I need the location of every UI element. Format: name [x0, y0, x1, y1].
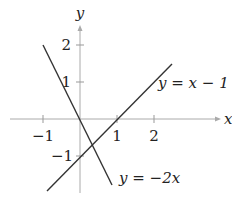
x-axis-arrow-icon — [215, 117, 221, 122]
tick-y-1: 1 — [61, 73, 71, 91]
tick-y-neg1: −1 — [51, 147, 73, 165]
label-y-x-minus-1: y = x − 1 — [157, 74, 229, 92]
tick-y-2: 2 — [61, 36, 71, 54]
y-axis-label: y — [75, 4, 85, 22]
x-axis-label: x — [224, 110, 232, 128]
tick-x-neg1: −1 — [32, 127, 54, 145]
y-axis-arrow-icon — [78, 25, 83, 31]
tick-x-2: 2 — [149, 127, 159, 145]
chart: −1 1 2 2 1 −1 x y y = x − 1 y = −2x — [0, 0, 232, 202]
tick-x-1: 1 — [112, 127, 122, 145]
label-y-neg2x: y = −2x — [118, 169, 181, 187]
